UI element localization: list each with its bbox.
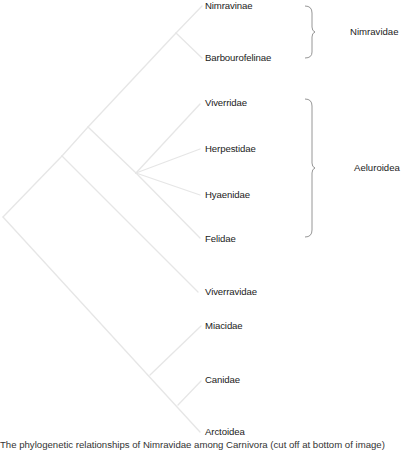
- taxon-label-canidae: Canidae: [205, 374, 240, 386]
- taxon-label-felidae: Felidae: [205, 233, 236, 245]
- taxon-label-miacidae: Miacidae: [205, 320, 243, 332]
- group-label-aeluroidea: Aeluroidea: [354, 162, 400, 174]
- branch-herpestidae: [136, 149, 200, 173]
- taxon-label-viverravidae: Viverravidae: [205, 286, 257, 298]
- taxon-label-nimravinae: Nimravinae: [205, 0, 253, 12]
- branch-felidae: [136, 173, 200, 238]
- brace-nimravidae: [305, 6, 315, 58]
- figure-caption: The phylogenetic relationships of Nimrav…: [0, 439, 408, 451]
- branch-miacidae: [150, 326, 201, 375]
- branch-canidae: [178, 381, 201, 405]
- brace-aeluroidea: [305, 99, 315, 237]
- taxon-label-viverridae: Viverridae: [205, 97, 247, 109]
- branch-barbourofelinae: [176, 33, 202, 58]
- branch-aeluroid-stem: [88, 127, 136, 173]
- branch-hyaenidae: [136, 173, 200, 195]
- taxon-label-barbourofelinae: Barbourofelinae: [205, 52, 271, 64]
- branch-viverravidae: [62, 156, 198, 292]
- group-label-nimravidae: Nimravidae: [350, 26, 399, 38]
- taxon-label-hyaenidae: Hyaenidae: [205, 189, 250, 201]
- branch-stem-upper: [62, 127, 88, 156]
- branch-root-lower: [3, 217, 200, 432]
- branch-root-upper: [3, 156, 62, 217]
- branch-viverridae: [136, 104, 200, 173]
- branch-nimravid-stem: [88, 33, 176, 127]
- taxon-label-herpestidae: Herpestidae: [205, 143, 256, 155]
- branch-nimravinae: [176, 6, 202, 33]
- taxon-label-arctoidea: Arctoidea: [205, 426, 245, 438]
